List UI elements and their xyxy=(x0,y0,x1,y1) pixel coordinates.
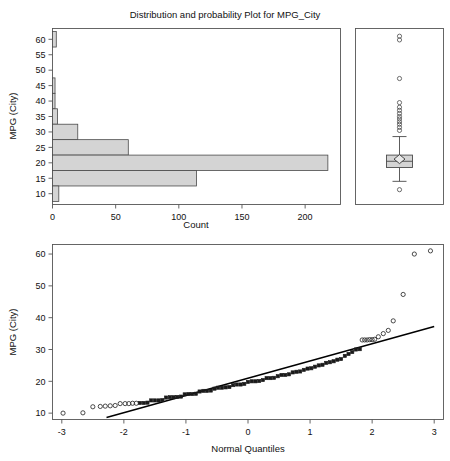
histogram-y-tick-label: 45 xyxy=(35,81,45,91)
qq-data-point xyxy=(332,360,335,363)
histogram-bar xyxy=(53,78,56,93)
histogram-bar xyxy=(53,93,56,108)
histogram-bar xyxy=(53,32,57,47)
histogram-bar xyxy=(53,186,59,201)
qq-reference-line xyxy=(106,327,434,418)
qq-data-point xyxy=(246,380,249,383)
qq-y-tick-label: 20 xyxy=(35,377,45,387)
histogram-x-axis-label: Count xyxy=(183,219,209,230)
qq-data-point xyxy=(113,403,117,407)
qq-data-point xyxy=(306,367,309,370)
qq-x-tick-label: -1 xyxy=(182,427,190,437)
qq-x-tick-label: -3 xyxy=(58,427,66,437)
qq-data-point xyxy=(412,252,416,256)
histogram-y-tick-label: 50 xyxy=(35,65,45,75)
qq-x-tick-label: 0 xyxy=(245,427,250,437)
qq-data-point xyxy=(103,404,107,408)
qq-data-point xyxy=(299,370,302,373)
qq-data-point xyxy=(164,396,167,399)
histogram-y-tick-label: 20 xyxy=(35,158,45,168)
qq-data-point xyxy=(325,361,328,364)
qq-data-point xyxy=(280,373,283,376)
qq-data-point xyxy=(336,358,339,361)
qq-y-tick-label: 40 xyxy=(35,313,45,323)
histogram-y-tick-label: 10 xyxy=(35,189,45,199)
histogram-bar xyxy=(53,140,129,155)
qq-data-point xyxy=(317,364,320,367)
qq-data-point xyxy=(313,365,316,368)
qq-data-point xyxy=(321,363,324,366)
qq-data-point xyxy=(254,380,257,383)
qq-data-point xyxy=(150,399,153,402)
qq-data-point xyxy=(194,392,197,395)
qq-data-point xyxy=(220,386,223,389)
qq-data-point xyxy=(202,389,205,392)
qq-x-ticks: -3-2-10123 xyxy=(58,420,437,437)
histogram-y-tick-label: 15 xyxy=(35,174,45,184)
qq-data-point xyxy=(265,377,268,380)
qq-y-tick-label: 50 xyxy=(35,281,45,291)
qq-data-point xyxy=(176,395,179,398)
qq-data-point xyxy=(328,361,331,364)
histogram-y-ticks: 1015202530354045505560 xyxy=(35,35,52,199)
qq-x-axis-label: Normal Quantiles xyxy=(211,443,285,454)
qq-x-tick-label: 3 xyxy=(432,427,437,437)
qq-data-point xyxy=(239,383,242,386)
qq-data-point xyxy=(81,411,85,415)
qq-data-point xyxy=(258,379,261,382)
qq-data-point xyxy=(284,373,287,376)
qq-data-point xyxy=(354,348,357,351)
box-plot-graphics xyxy=(387,34,413,192)
histogram-panel: 1015202530354045505560 050100150200 MPG … xyxy=(7,29,341,231)
histogram-bar xyxy=(53,155,328,170)
qq-y-tick-label: 10 xyxy=(35,408,45,418)
qq-data-point xyxy=(224,386,227,389)
histogram-y-tick-label: 35 xyxy=(35,112,45,122)
qq-data-point xyxy=(391,319,395,323)
probability-plot-panel: 102030405060 -3-2-10123 MPG (City) Norma… xyxy=(7,245,444,455)
qq-data-point xyxy=(161,398,164,401)
histogram-x-tick-label: 150 xyxy=(234,212,249,222)
histogram-bars xyxy=(53,32,328,202)
qq-data-point xyxy=(351,350,354,353)
box-plot-panel xyxy=(356,29,444,205)
qq-y-ticks: 102030405060 xyxy=(35,249,52,418)
qq-data-point xyxy=(108,404,112,408)
qq-data-point xyxy=(401,292,405,296)
qq-data-point xyxy=(138,401,141,404)
figure-canvas: Distribution and probability Plot for MP… xyxy=(0,0,450,461)
qq-data-point xyxy=(142,401,145,404)
qq-data-points xyxy=(61,249,433,415)
qq-data-point xyxy=(343,354,346,357)
histogram-y-tick-label: 25 xyxy=(35,143,45,153)
qq-data-point xyxy=(381,331,385,335)
qq-data-point xyxy=(295,370,298,373)
qq-data-point xyxy=(205,389,208,392)
qq-data-point xyxy=(172,396,175,399)
qq-data-point xyxy=(339,357,342,360)
qq-data-point xyxy=(98,404,102,408)
qq-y-axis-label: MPG (City) xyxy=(7,309,18,356)
qq-data-point xyxy=(269,377,272,380)
qq-data-point xyxy=(153,399,156,402)
qq-data-point xyxy=(261,378,264,381)
statistical-figure: Distribution and probability Plot for MP… xyxy=(0,0,450,461)
histogram-y-tick-label: 60 xyxy=(35,35,45,45)
qq-data-point xyxy=(168,396,171,399)
qq-data-point xyxy=(217,386,220,389)
qq-data-point xyxy=(157,399,160,402)
histogram-x-tick-label: 50 xyxy=(111,212,121,222)
qq-data-point xyxy=(358,348,361,351)
histogram-x-tick-label: 200 xyxy=(298,212,313,222)
qq-data-point xyxy=(347,352,350,355)
histogram-x-ticks: 050100150200 xyxy=(50,205,313,222)
qq-data-point xyxy=(118,401,122,405)
qq-data-point xyxy=(276,375,279,378)
histogram-bar xyxy=(53,171,197,186)
qq-data-point xyxy=(386,328,390,332)
qq-x-tick-label: 1 xyxy=(308,427,313,437)
qq-data-point xyxy=(191,392,194,395)
histogram-y-axis-label: MPG (City) xyxy=(7,93,18,140)
box-outlier-point xyxy=(397,101,401,105)
histogram-y-tick-label: 30 xyxy=(35,127,45,137)
